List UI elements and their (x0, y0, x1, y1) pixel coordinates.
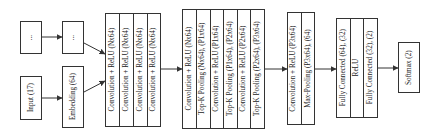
conv-block-1-layer: Convolution + ReLU (Nx64) (148, 14, 160, 126)
embedding-node-label: Embedding (64) (69, 74, 76, 121)
layer-label: Convolution + ReLU (Nx64) (186, 27, 193, 111)
layer-label: Top-K Pooling (Nx64), (P1x64) (200, 23, 207, 115)
fc-block-layer: Fully Connected (64), (32) (337, 19, 351, 117)
conv-block-2-layer: Top-K Pooling (Nx64), (P1x64) (197, 10, 211, 128)
conv-block-1: Convolution + ReLU (Nx64) Convolution + … (105, 13, 161, 127)
ellipsis-node-2: ... (62, 21, 84, 54)
ellipsis-node-1-label: ... (27, 35, 34, 40)
layer-label: Convolution + ReLU (Nx64) (123, 28, 130, 112)
ellipsis-node-2-label: ... (69, 35, 76, 40)
layer-label: Convolution + ReLU (P1x64) (213, 26, 220, 112)
conv-block-2-layer: Top-K Pooling (P2x64), (P3x64) (251, 10, 264, 128)
layer-label: Fully Connected (64), (32) (340, 29, 347, 106)
ellipsis-node-1: ... (20, 21, 42, 54)
layer-label: Convolution + ReLU (Nx64) (150, 28, 157, 112)
input-node: Input (17) (20, 76, 42, 120)
arrow-ellipsis2-to-conv1 (84, 43, 105, 54)
layer-label: Top-K Pooling (P1x64), (P2x64) (227, 22, 234, 117)
embedding-node: Embedding (64) (62, 66, 84, 128)
conv-block-2-layer: Top-K Pooling (P1x64), (P2x64) (224, 10, 238, 128)
conv-block-3-layer: Convolution + ReLU (P3x64) (288, 13, 302, 124)
conv-block-3: Convolution + ReLU (P3x64) Max-Pooling (… (287, 12, 315, 125)
layer-label: Fully Connected (32), (2) (367, 31, 374, 104)
conv-block-2: Convolution + ReLU (Nx64) Top-K Pooling … (182, 9, 265, 129)
layer-label: Convolution + ReLU (Nx64) (137, 28, 144, 112)
layer-label: Top-K Pooling (P2x64), (P3x64) (254, 22, 261, 117)
conv-block-2-layer: Convolution + ReLU (P1x64) (211, 10, 224, 128)
layer-label: Convolution + ReLU (Nx64) (109, 28, 116, 112)
fc-block: Fully Connected (64), (32) ReLU Fully Co… (336, 18, 378, 118)
arrow-embedding-to-conv1 (84, 81, 105, 92)
layer-label: Convolution + ReLU (P3x64) (291, 25, 298, 111)
conv-block-1-layer: Convolution + ReLU (Nx64) (120, 14, 134, 126)
input-node-label: Input (17) (27, 84, 34, 113)
conv-block-2-layer: Convolution + ReLU (P2x64) (238, 10, 251, 128)
layer-label: Convolution + ReLU (P2x64) (240, 26, 247, 112)
conv-block-2-layer: Convolution + ReLU (Nx64) (183, 10, 197, 128)
layer-label: ReLU (353, 59, 360, 77)
conv-block-1-layer: Convolution + ReLU (Nx64) (106, 14, 120, 126)
layer-label: Max-Pooling (P3x64), (64) (304, 29, 311, 107)
softmax-node-label: Softmax (2) (405, 50, 412, 85)
conv-block-1-layer: Convolution + ReLU (Nx64) (134, 14, 148, 126)
fc-block-layer: ReLU (351, 19, 364, 117)
conv-block-3-layer: Max-Pooling (P3x64), (64) (302, 13, 314, 124)
softmax-node: Softmax (2) (398, 42, 420, 93)
fc-block-layer: Fully Connected (32), (2) (364, 19, 377, 117)
